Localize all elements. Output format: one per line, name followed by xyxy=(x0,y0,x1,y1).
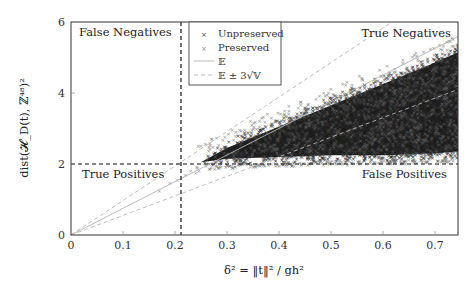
svg-text:×: × xyxy=(423,117,428,124)
svg-text:×: × xyxy=(286,103,291,109)
svg-text:×: × xyxy=(360,76,365,82)
svg-text:×: × xyxy=(409,130,414,137)
svg-text:×: × xyxy=(274,136,279,143)
svg-text:×: × xyxy=(385,83,390,90)
svg-text:×: × xyxy=(443,95,448,102)
svg-text:×: × xyxy=(257,118,262,124)
svg-text:×: × xyxy=(433,137,438,144)
svg-text:×: × xyxy=(426,127,431,134)
x-tick-label: 0.6 xyxy=(374,239,392,252)
false-positives-label: False Positives xyxy=(362,167,447,181)
svg-text:×: × xyxy=(254,126,259,132)
svg-text:×: × xyxy=(351,144,356,151)
svg-text:×: × xyxy=(273,153,278,160)
svg-text:×: × xyxy=(374,132,379,139)
svg-text:×: × xyxy=(377,87,382,94)
svg-text:×: × xyxy=(447,78,452,85)
svg-text:×: × xyxy=(449,116,454,123)
svg-text:×: × xyxy=(345,119,350,126)
scatter-chart: ××××××××××××××××××××××××××××××××××××××××… xyxy=(0,0,475,291)
svg-text:×: × xyxy=(400,141,405,148)
svg-text:×: × xyxy=(444,105,449,112)
svg-text:×: × xyxy=(301,160,306,166)
svg-text:×: × xyxy=(315,116,320,123)
x-axis-label: δ² = ‖t‖² / gh² xyxy=(224,263,304,278)
svg-text:×: × xyxy=(402,96,407,103)
svg-text:×: × xyxy=(351,160,356,166)
false-negatives-label: False Negatives xyxy=(79,25,172,39)
svg-text:×: × xyxy=(370,106,375,113)
y-ticks xyxy=(71,93,75,164)
svg-text:×: × xyxy=(397,101,402,108)
svg-text:×: × xyxy=(434,127,439,134)
svg-text:×: × xyxy=(458,47,463,54)
svg-text:×: × xyxy=(439,57,444,64)
svg-text:×: × xyxy=(343,82,348,88)
svg-text:×: × xyxy=(261,152,266,159)
svg-text:×: × xyxy=(243,131,248,137)
svg-text:×: × xyxy=(444,86,449,93)
svg-text:×: × xyxy=(279,151,284,158)
true-positives-label: True Positives xyxy=(82,167,164,181)
svg-text:×: × xyxy=(385,126,390,133)
y-tick-label: 0 xyxy=(58,229,65,242)
x-tick-label: 0.3 xyxy=(218,239,236,252)
svg-text:×: × xyxy=(421,90,426,97)
x-tick-label: 0.4 xyxy=(270,239,288,252)
legend: × Unpreserved × Preserved 𝔼 𝔼 ± 3√𝕍 xyxy=(189,22,284,85)
svg-text:×: × xyxy=(417,130,422,137)
svg-text:×: × xyxy=(303,151,308,158)
svg-text:×: × xyxy=(452,43,457,49)
svg-text:×: × xyxy=(344,112,349,119)
svg-text:×: × xyxy=(441,132,446,139)
svg-text:×: × xyxy=(437,74,442,81)
svg-text:×: × xyxy=(393,127,398,134)
svg-text:×: × xyxy=(343,160,348,166)
svg-text:×: × xyxy=(261,140,266,147)
svg-text:×: × xyxy=(405,147,410,154)
svg-text:×: × xyxy=(322,147,327,154)
svg-text:×: × xyxy=(387,73,392,79)
svg-text:×: × xyxy=(412,115,417,122)
svg-text:×: × xyxy=(330,105,335,112)
svg-text:×: × xyxy=(455,124,460,131)
svg-text:×: × xyxy=(447,55,452,62)
svg-text:×: × xyxy=(410,143,415,150)
svg-text:×: × xyxy=(439,143,444,150)
svg-text:×: × xyxy=(216,142,221,148)
svg-text:×: × xyxy=(374,139,379,146)
svg-text:×: × xyxy=(356,114,361,121)
y-tick-label: 6 xyxy=(58,16,65,29)
svg-text:×: × xyxy=(421,78,426,85)
svg-text:×: × xyxy=(302,141,307,148)
svg-text:×: × xyxy=(335,129,340,136)
svg-text:×: × xyxy=(458,41,463,48)
svg-text:×: × xyxy=(379,158,384,164)
y-tick-labels: 0 2 4 6 xyxy=(58,16,65,242)
svg-text:×: × xyxy=(443,158,448,164)
svg-text:×: × xyxy=(401,125,406,132)
svg-text:×: × xyxy=(413,97,418,104)
x-tick-label: 0 xyxy=(68,239,75,252)
svg-text:×: × xyxy=(389,118,394,125)
legend-preserved-label: Preserved xyxy=(218,42,270,53)
svg-text:×: × xyxy=(432,52,437,58)
svg-text:×: × xyxy=(435,64,440,71)
svg-text:×: × xyxy=(365,91,370,98)
svg-text:×: × xyxy=(205,156,210,163)
svg-text:×: × xyxy=(325,92,330,98)
unpreserved-marker-icon: × xyxy=(201,31,207,39)
svg-text:×: × xyxy=(416,144,421,151)
svg-text:×: × xyxy=(282,108,287,114)
svg-text:×: × xyxy=(379,126,384,133)
svg-text:×: × xyxy=(430,97,435,104)
svg-text:×: × xyxy=(271,145,276,152)
svg-text:×: × xyxy=(393,97,398,104)
svg-text:×: × xyxy=(250,122,255,128)
svg-text:×: × xyxy=(338,145,343,152)
svg-text:×: × xyxy=(231,165,236,171)
svg-text:×: × xyxy=(294,122,299,129)
svg-text:×: × xyxy=(222,134,227,140)
svg-text:×: × xyxy=(404,66,409,72)
y-tick-label: 4 xyxy=(58,87,65,100)
